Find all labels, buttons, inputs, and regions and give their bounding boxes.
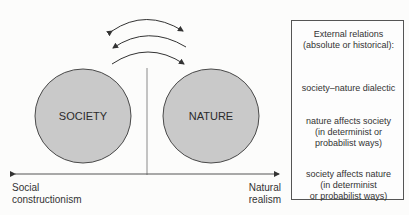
legend-item-society-affects-nature-line3: or probabilist ways) [292, 191, 405, 202]
legend-item-society-affects-nature-line1: society affects nature [292, 169, 405, 180]
natural-realism-label-line2: realism [245, 194, 281, 206]
nature-label: NATURE [171, 110, 251, 122]
society-affects-nature-arrow-icon [112, 52, 184, 64]
nature-affects-society-arrow-icon [113, 36, 186, 48]
natural-realism-label-line1: Natural [245, 182, 281, 194]
legend-item-dialectic: society–nature dialectic [292, 83, 405, 94]
society-label: SOCIETY [43, 110, 123, 122]
social-constructionism-label-line1: Social [12, 182, 39, 194]
legend-title-line2: (absolute or historical): [292, 40, 405, 51]
diagram-canvas: SOCIETY NATURE Social constructionism Na… [0, 0, 409, 215]
legend-box: External relations (absolute or historic… [291, 20, 404, 200]
legend-item-nature-affects-society-line3: probabilist ways) [292, 138, 405, 149]
legend-item-nature-affects-society-line2: (in determinist or [292, 127, 405, 138]
legend-item-society-affects-nature-line2: (in determinist [292, 180, 405, 191]
dialectic-arrow-icon [112, 20, 183, 32]
legend-title-line1: External relations [292, 29, 405, 40]
legend-item-nature-affects-society-line1: nature affects society [292, 116, 405, 127]
social-constructionism-label-line2: constructionism [12, 194, 81, 206]
